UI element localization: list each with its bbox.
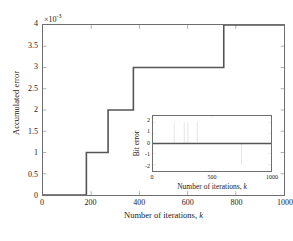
y-tick-label: 4 xyxy=(2,20,38,28)
y-axis-exponent-label: ×10-3 xyxy=(44,11,62,25)
y-axis-exponent-base: ×10 xyxy=(44,15,57,24)
inset-x-axis-title-variable: k xyxy=(243,182,246,191)
x-axis-title: Number of iterations, k xyxy=(42,210,285,221)
x-axis-tick-labels: 0 200 400 600 800 1000 xyxy=(42,198,285,210)
inset-y-axis-title: Bit error xyxy=(132,114,141,174)
inset-x-tick-label: 500 xyxy=(208,173,217,181)
x-tick-label: 600 xyxy=(182,198,194,208)
inset-plot-area xyxy=(152,115,272,172)
inset-x-axis-title: Number of iterations, k xyxy=(142,182,282,192)
bit-error-series xyxy=(153,116,271,171)
y-tick-label: 0.5 xyxy=(2,171,38,179)
inset-x-tick-label: 0 xyxy=(151,173,154,181)
inset-y-tick-label: 1 xyxy=(147,128,150,134)
inset-y-tick-label: 2 xyxy=(147,117,150,123)
x-axis-title-variable: k xyxy=(199,210,203,220)
inset-y-tick-label: -1 xyxy=(145,151,150,157)
y-axis-exponent-power: -3 xyxy=(57,13,62,19)
y-axis-title: Accumulated error xyxy=(11,43,21,163)
figure-canvas: ×10-3 4 3.5 3 2.5 2 1.5 1 0.5 0 xyxy=(0,0,293,241)
inset-y-tick-label: 0 xyxy=(147,140,150,146)
inset-y-tick-label: -2 xyxy=(145,163,150,169)
y-tick-label: 0 xyxy=(2,192,38,200)
inset-x-tick-label: 1000 xyxy=(266,173,278,181)
x-tick-label: 400 xyxy=(133,198,145,208)
x-tick-label: 800 xyxy=(230,198,242,208)
x-tick-label: 1000 xyxy=(277,198,293,208)
x-tick-label: 0 xyxy=(40,198,44,208)
x-tick-label: 200 xyxy=(85,198,97,208)
